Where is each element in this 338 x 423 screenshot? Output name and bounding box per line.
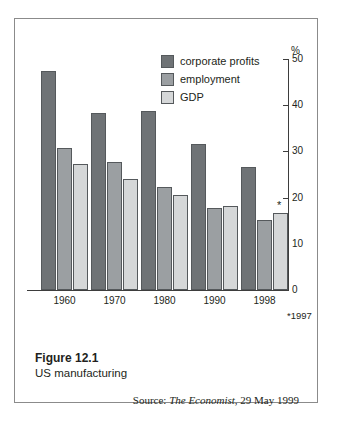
- legend-item-label: GDP: [180, 92, 204, 103]
- figure-panel: % 50403020100 * 19601970198019901998 *19…: [14, 18, 318, 403]
- x-axis-tick-label-1970: 1970: [89, 296, 141, 306]
- legend-item-GDP: GDP: [161, 88, 259, 106]
- x-axis-tick-label-1990: 1990: [189, 296, 241, 306]
- figure-number: Figure 12.1: [35, 351, 299, 365]
- source-attribution: Source: The Economist, 29 May 1999: [133, 394, 299, 406]
- bar-employment-1970: [107, 162, 122, 290]
- bar-employment-1998: [257, 220, 272, 290]
- bar-employment-1980: [157, 187, 172, 290]
- x-axis-tick-label-1980: 1980: [139, 296, 191, 306]
- source-prefix: Source:: [133, 394, 169, 406]
- source-suffix: , 29 May 1999: [235, 394, 299, 406]
- bar-GDP-1990: [223, 206, 238, 290]
- y-axis-tick-label: 0: [292, 285, 298, 295]
- bar-GDP-1980: [173, 195, 188, 290]
- footnote-asterisk-1997: *1997: [287, 311, 312, 321]
- x-axis-tick-label-1998: 1998: [239, 296, 291, 306]
- x-axis-line: [27, 290, 288, 291]
- bar-corporate-profits-1990: [191, 144, 206, 290]
- y-axis-tick-label: 30: [292, 146, 303, 156]
- legend-swatch-icon: [161, 55, 174, 68]
- bar-corporate-profits-1960: [41, 71, 56, 290]
- bar-asterisk-marker: *: [277, 200, 281, 211]
- legend-item-label: corporate profits: [180, 56, 259, 67]
- bar-GDP-1970: [123, 179, 138, 290]
- legend-swatch-icon: [161, 91, 174, 104]
- source-publication: The Economist: [169, 394, 235, 406]
- bar-corporate-profits-1998: [241, 167, 256, 290]
- bar-employment-1990: [207, 208, 222, 290]
- legend-swatch-icon: [161, 73, 174, 86]
- bar-group: [41, 59, 88, 290]
- bar-GDP-1998: [273, 213, 288, 290]
- x-axis-tick-label-1960: 1960: [39, 296, 91, 306]
- bar-group: [91, 59, 138, 290]
- chart-legend: corporate profitsemploymentGDP: [161, 52, 259, 106]
- y-axis-tick-label: 10: [292, 239, 303, 249]
- bar-corporate-profits-1980: [141, 111, 156, 290]
- figure-subtitle: US manufacturing: [35, 366, 299, 380]
- bar-GDP-1960: [73, 164, 88, 290]
- y-axis-tick-mark: [283, 290, 289, 291]
- y-axis-line: [288, 59, 289, 290]
- bar-chart-plot: % 50403020100 * 19601970198019901998 *19…: [15, 19, 319, 319]
- figure-caption: Figure 12.1 US manufacturing Source: The…: [35, 351, 299, 380]
- y-axis-tick-label: 50: [292, 54, 303, 64]
- bar-corporate-profits-1970: [91, 113, 106, 290]
- bar-employment-1960: [57, 148, 72, 290]
- legend-item-employment: employment: [161, 70, 259, 88]
- y-axis-tick-label: 40: [292, 100, 303, 110]
- y-axis-tick-label: 20: [292, 193, 303, 203]
- legend-item-corporate-profits: corporate profits: [161, 52, 259, 70]
- legend-item-label: employment: [180, 74, 240, 85]
